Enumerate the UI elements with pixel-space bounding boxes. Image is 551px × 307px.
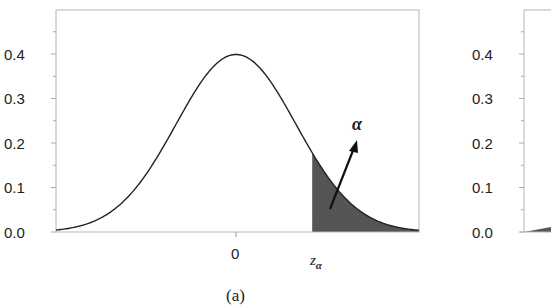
panel-a: 0.0 0.1 0.2 0.3 0.4 0 zα α (a)	[4, 10, 419, 305]
shaded-upper-tail	[312, 153, 419, 232]
density-curve	[56, 54, 419, 230]
y-tick-label: 0.1	[472, 179, 493, 196]
panel-caption-a: (a)	[226, 286, 245, 305]
panel-b: 0.0 0.1 0.2 0.3 0.4	[472, 10, 551, 241]
y-tick-label: 0.3	[472, 90, 493, 107]
alpha-label: α	[352, 114, 363, 134]
y-tick-label: 0.4	[4, 46, 25, 63]
chart-canvas: 0.0 0.1 0.2 0.3 0.4 0 zα α (a) 0.0 0.1 0…	[0, 0, 551, 307]
plot-frame	[56, 10, 419, 232]
y-tick-label: 0.1	[4, 179, 25, 196]
shaded-lower-tail	[524, 227, 551, 232]
y-axis-ticks	[51, 32, 56, 232]
y-tick-label: 0.4	[472, 46, 493, 63]
alpha-subscript: α	[316, 259, 323, 271]
y-tick-label: 0.0	[4, 224, 25, 241]
x-tick-label-zero: 0	[231, 245, 239, 262]
y-tick-label: 0.2	[4, 135, 25, 152]
y-axis-ticks	[519, 32, 524, 232]
y-tick-label: 0.2	[472, 135, 493, 152]
y-tick-label: 0.0	[472, 224, 493, 241]
x-tick-label-z-alpha: zα	[309, 252, 323, 271]
y-tick-label: 0.3	[4, 90, 25, 107]
